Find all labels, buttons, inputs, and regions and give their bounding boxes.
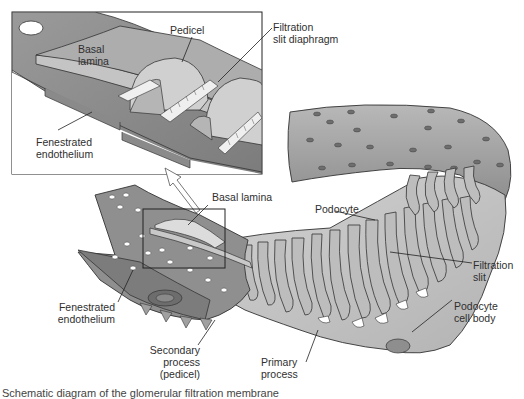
label-filtration-slit-diaphragm-line2: slit diaphragm [273,33,338,45]
figure-caption-partial: Schematic diagram of the glomerular filt… [2,387,279,399]
label-podocyte: Podocyte [315,203,359,215]
label-pedicel: Pedicel [170,24,204,36]
label-secondary-process-line2: process [140,356,200,368]
label-podocyte-cell-body-line1: Podocyte [454,300,498,312]
label-podocyte-cell-body-line2: cell body [454,312,495,324]
label-fenestrated-endothelium-line2: endothelium [32,313,115,325]
label-primary-process-line2: process [261,368,298,380]
podocyte-nucleus [386,339,410,353]
label-secondary-process-line3: (pedicel) [140,368,200,380]
label-fenestrated-endothelium-line1: Fenestrated [32,301,115,313]
label-filtration-slit-line1: Filtration [473,259,513,271]
label-filtration-slit-line2: slit [473,271,486,283]
label-basal-lamina: Basal lamina [212,191,272,203]
label-inset-basal-lamina-line2: lamina [78,55,109,67]
label-inset-fenestrated-endothelium-line2: endothelium [36,148,93,160]
label-secondary-process-line1: Secondary [140,344,200,356]
label-inset-basal-lamina-line1: Basal [78,43,104,55]
label-inset-fenestrated-endothelium-line1: Fenestrated [36,136,92,148]
label-filtration-slit-diaphragm-line1: Filtration [273,21,313,33]
label-primary-process-line1: Primary [261,356,297,368]
